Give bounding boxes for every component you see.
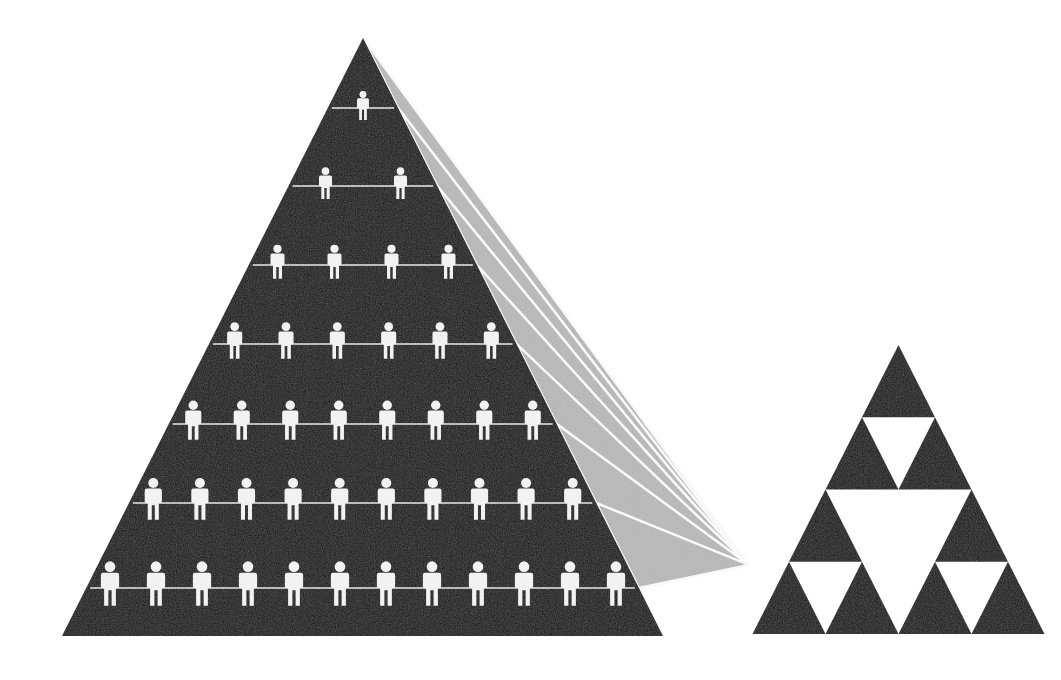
pyramid-diagram (0, 0, 1061, 680)
illustration-canvas (0, 0, 1061, 680)
